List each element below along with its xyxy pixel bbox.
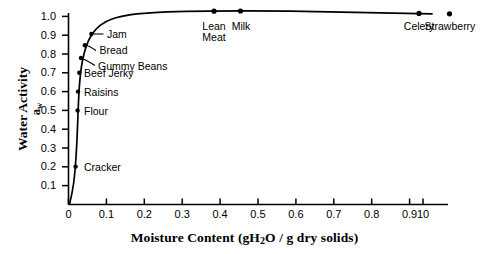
y-axis-symbol-w: w [34, 103, 44, 109]
x-tick-label-6: 0.5 [240, 208, 276, 220]
point-label-cracker: Cracker [84, 162, 121, 173]
marker-beef-jerky [77, 71, 81, 75]
x-axis-title: Moisture Content (gH2O / g dry solids) [0, 230, 489, 246]
y-axis-title: Water Activity aw [12, 14, 46, 204]
point-label-jam: Jam [107, 29, 127, 40]
point-label-raisins: Raisins [84, 87, 118, 98]
x-axis-title-tail: O / g dry solids) [265, 230, 358, 245]
x-tick-label-7: 0.6 [278, 208, 314, 220]
point-label-flour: Flour [84, 106, 108, 117]
marker-cracker [73, 164, 77, 168]
x-tick-label-4: 0.3 [164, 208, 200, 220]
isotherm-curve [70, 11, 432, 204]
marker-raisins [76, 89, 80, 93]
x-tick-label-1: 0 [51, 208, 87, 220]
y-axis-symbol-a: a [29, 109, 43, 115]
point-label-bread: Bread [100, 45, 128, 56]
point-label-beef-jerky: Beef Jerky [84, 68, 134, 79]
x-tick-label-3: 0.2 [126, 208, 162, 220]
x-tick-label-11: 10 [405, 208, 441, 220]
point-label-strawberry: Strawberry [419, 21, 481, 32]
leader-line-bread [86, 45, 96, 51]
marker-strawberry [447, 11, 452, 16]
x-tick-label-5: 0.4 [202, 208, 238, 220]
marker-flour [75, 108, 79, 112]
x-axis-title-subscript: 2 [260, 235, 265, 246]
y-axis-title-symbol: aw [30, 103, 43, 115]
marker-jam [89, 32, 93, 36]
data-point-markers [73, 8, 452, 168]
x-tick-label-2: 0.1 [88, 208, 124, 220]
x-axis-ticks [69, 199, 424, 205]
x-tick-label-8: 0.7 [316, 208, 352, 220]
point-label-milk: Milk [222, 21, 260, 32]
marker-lean-meat [211, 9, 216, 14]
marker-celery [416, 11, 421, 16]
point-label-lean-meat-line2: Meat [189, 32, 239, 43]
marker-bread [83, 43, 87, 47]
marker-milk [238, 8, 243, 13]
y-axis-title-main: Water Activity [16, 67, 30, 151]
marker-gummy-beans [79, 56, 83, 60]
x-tick-label-9: 0.8 [354, 208, 390, 220]
chart-container: 1.0 0.9 0.8 0.7 0.6 0.5 0.4 0.3 0.2 0.1 … [0, 0, 489, 254]
leader-line-gummy-beans [83, 59, 96, 66]
x-axis-title-main: Moisture Content (gH [131, 230, 260, 245]
y-axis-ticks [62, 16, 69, 185]
